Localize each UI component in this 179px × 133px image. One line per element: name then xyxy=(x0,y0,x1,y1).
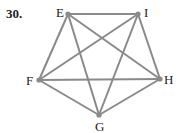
vertex-E xyxy=(65,11,70,16)
edge-H-F xyxy=(39,79,160,80)
vertex-label-G: G xyxy=(95,120,104,133)
vertex-G xyxy=(96,112,101,117)
edge-E-H xyxy=(68,14,160,79)
edge-H-G xyxy=(99,79,160,115)
vertex-I xyxy=(135,11,140,16)
vertex-label-I: I xyxy=(144,6,148,19)
complete-graph-diagram xyxy=(0,0,179,133)
edge-I-G xyxy=(99,14,138,115)
vertex-F xyxy=(36,77,41,82)
vertex-label-F: F xyxy=(26,74,33,87)
vertex-H xyxy=(157,76,162,81)
vertex-label-H: H xyxy=(164,73,173,86)
vertex-label-E: E xyxy=(56,6,64,19)
edge-I-H xyxy=(138,14,160,79)
